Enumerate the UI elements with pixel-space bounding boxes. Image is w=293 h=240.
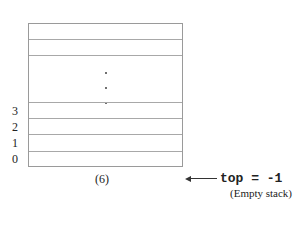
slot-divider	[29, 55, 182, 56]
slot-divider	[29, 102, 182, 103]
ellipsis-dot	[105, 72, 107, 74]
index-label-3: 3	[12, 105, 18, 117]
index-label-2: 2	[12, 121, 18, 133]
slot-divider	[29, 118, 182, 119]
pointer-arrow	[187, 178, 217, 179]
slot-divider	[29, 134, 182, 135]
figure-caption: (6)	[95, 172, 109, 187]
stack-array	[28, 23, 183, 167]
empty-stack-note: (Empty stack)	[230, 187, 292, 199]
slot-divider	[29, 151, 182, 152]
ellipsis-dot	[105, 87, 107, 89]
index-label-1: 1	[12, 137, 18, 149]
index-label-0: 0	[12, 153, 18, 165]
slot-divider	[29, 39, 182, 40]
top-pointer-label: top = -1	[220, 171, 282, 186]
